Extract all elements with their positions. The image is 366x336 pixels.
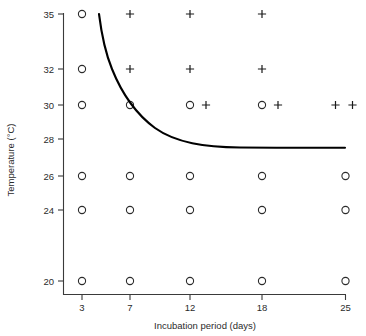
marker-circle	[78, 206, 85, 213]
marker-plus	[331, 101, 339, 109]
marker-circle	[342, 172, 349, 179]
x-tick-label: 7	[127, 302, 132, 313]
y-tick-label: 32	[43, 64, 54, 75]
marker-circle	[78, 277, 85, 284]
marker-plus	[126, 65, 134, 73]
x-axis-title: Incubation period (days)	[154, 320, 256, 331]
marker-circle	[258, 172, 265, 179]
x-tick-label: 18	[257, 302, 268, 313]
y-tick-label: 26	[43, 171, 54, 182]
marker-circle	[186, 101, 193, 108]
marker-plus	[274, 101, 282, 109]
marker-plus	[186, 65, 194, 73]
marker-circle	[78, 172, 85, 179]
marker-circle	[342, 277, 349, 284]
scatter-plot-canvas: 35 32 30 28 26 24 20 3 7 12 18 25 Incuba…	[0, 0, 366, 336]
y-tick-label: 20	[43, 276, 54, 287]
marker-circle	[186, 172, 193, 179]
marker-circle	[78, 101, 85, 108]
marker-circle	[258, 206, 265, 213]
y-tick-label: 30	[43, 100, 54, 111]
y-axis-title: Temperature (°C)	[5, 124, 16, 197]
x-axis-ticks: 3 7 12 18 25	[79, 295, 350, 314]
x-tick-label: 3	[79, 302, 84, 313]
marker-plus	[126, 10, 134, 18]
marker-plus	[258, 65, 266, 73]
x-tick-label: 25	[340, 302, 351, 313]
axes-group	[64, 13, 347, 295]
threshold-boundary-curve	[99, 14, 345, 148]
marker-circle	[126, 206, 133, 213]
x-tick-label: 12	[185, 302, 196, 313]
marker-circle	[126, 172, 133, 179]
y-tick-label: 35	[43, 9, 54, 20]
marker-plus	[348, 101, 356, 109]
chart-figure: 35 32 30 28 26 24 20 3 7 12 18 25 Incuba…	[0, 0, 366, 336]
marker-plus	[258, 10, 266, 18]
marker-plus	[202, 101, 210, 109]
marker-circle	[78, 65, 85, 72]
y-tick-label: 24	[43, 205, 54, 216]
marker-circle	[186, 206, 193, 213]
marker-circle	[258, 277, 265, 284]
y-axis-ticks: 35 32 30 28 26 24 20	[43, 9, 63, 287]
marker-circle	[126, 277, 133, 284]
marker-circle	[342, 206, 349, 213]
marker-circle	[186, 277, 193, 284]
y-tick-label: 28	[43, 134, 54, 145]
axis-lines	[64, 13, 347, 295]
marker-circle	[258, 101, 265, 108]
marker-plus	[186, 10, 194, 18]
marker-circle	[78, 10, 85, 17]
